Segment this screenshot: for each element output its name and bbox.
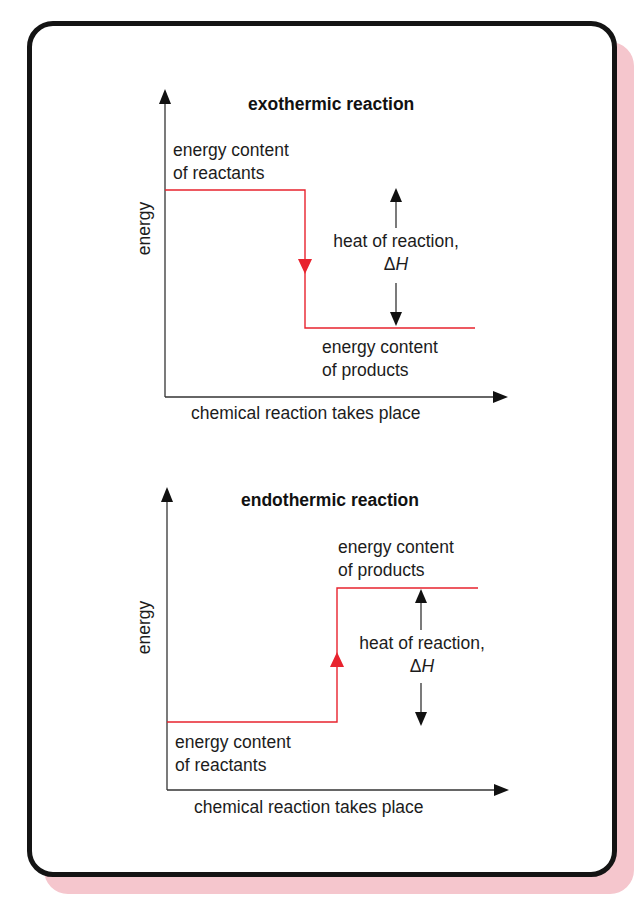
endothermic-y-label: energy: [134, 601, 155, 655]
y-axis-arrow-icon: [159, 89, 171, 104]
delta-h: ΔH: [342, 655, 502, 678]
exothermic-x-label: chemical reaction takes place: [191, 402, 421, 425]
x-axis-arrow-icon: [494, 784, 509, 796]
delta-h: ΔH: [316, 253, 476, 276]
up-arrow-icon: [415, 589, 427, 603]
down-arrow-icon: [390, 312, 402, 326]
endothermic-heat-label: heat of reaction, ΔH: [342, 632, 502, 678]
down-arrow-icon: [298, 259, 312, 274]
exothermic-reactants-label: energy content of reactants: [173, 139, 289, 185]
endothermic-reactants-label: energy content of reactants: [175, 731, 291, 777]
exothermic-title: exothermic reaction: [248, 94, 414, 115]
down-arrow-icon: [415, 712, 427, 726]
exothermic-products-label: energy content of products: [322, 336, 438, 382]
exothermic-heat-label: heat of reaction, ΔH: [316, 230, 476, 276]
up-arrow-icon: [390, 188, 402, 202]
y-axis-arrow-icon: [161, 487, 173, 502]
x-axis-arrow-icon: [493, 391, 508, 403]
endothermic-products-label: energy content of products: [338, 536, 454, 582]
endothermic-x-label: chemical reaction takes place: [194, 796, 424, 819]
endothermic-title: endothermic reaction: [241, 490, 419, 511]
energy-diagrams: [0, 0, 641, 899]
exothermic-y-label: energy: [134, 202, 155, 256]
